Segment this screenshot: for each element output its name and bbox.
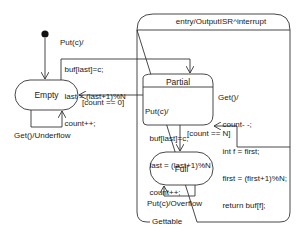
underflow-label: Get()/Underflow [14, 131, 70, 140]
initial-state-dot [41, 30, 48, 37]
partial-line-4: count++; [145, 188, 211, 197]
put-line-1: Put(c)/ [60, 38, 126, 47]
put-line-4: count++; [60, 119, 126, 128]
count-zero-label: [count == 0] [82, 98, 124, 107]
entry-action-label: entry/OutputISR^interrupt [161, 17, 281, 26]
partial-internal-actions: Put(c)/ buf[last]=c; last = (last+1)%N c… [145, 89, 211, 206]
partial-state-label: Partial [143, 77, 213, 87]
get-transition-label: Get()/ count- -; int f = first; first = … [218, 75, 287, 219]
get-line-4: first = (first+1)%N; [218, 174, 287, 183]
put-line-2: buf[last]=c; [60, 65, 126, 74]
put-transition-label: Put(c)/ buf[last]=c; last = (last+1)%N c… [60, 20, 126, 137]
count-n-label: [count == N] [187, 129, 231, 138]
overflow-label: Put(c)/Overflow [147, 199, 202, 208]
get-line-3: int f = first; [218, 147, 287, 156]
get-line-2: count- -; [218, 120, 287, 129]
get-line-1: Get()/ [218, 93, 287, 102]
partial-line-3: last = (last+1)%N [145, 161, 211, 170]
get-line-5: return buf[f]; [218, 201, 287, 210]
partial-line-1: Put(c)/ [145, 107, 211, 116]
underflow-self-transition [31, 110, 62, 127]
gettable-state-label: Gettable [152, 217, 182, 226]
